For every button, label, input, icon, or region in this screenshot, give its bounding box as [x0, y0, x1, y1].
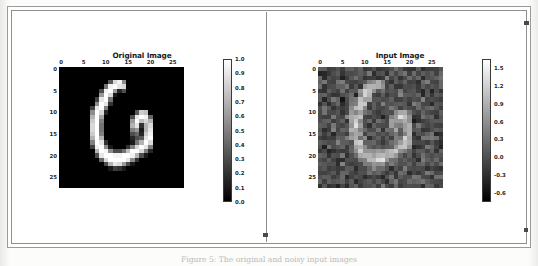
x-tick-label: 0: [318, 59, 322, 65]
y-tick-label: 5: [312, 88, 316, 94]
heatmap-input-image: [318, 67, 443, 188]
colorbar-tick-label: -0.3: [494, 172, 506, 178]
colorbar-tick-label: 0.6: [235, 113, 245, 119]
x-tick-label: 20: [147, 59, 155, 65]
colorbar-tick-label: 0.9: [235, 70, 245, 76]
colorbar-tick-label: 0.1: [235, 185, 245, 191]
x-tick-label: 10: [102, 59, 110, 65]
y-tick-label: 0: [312, 66, 316, 72]
y-tick-label: 10: [49, 109, 57, 115]
y-tick-label: 20: [49, 153, 57, 159]
x-tick-label: 25: [169, 59, 177, 65]
colorbar-tick-label: 0.0: [235, 199, 245, 205]
scanned-page: Original Image 0510152025 0510152025 1.0…: [0, 0, 538, 266]
heatmap-original-image: [59, 67, 184, 188]
y-axis-ticks-input: 0510152025: [302, 67, 316, 188]
colorbar-tick-label: 0.2: [235, 170, 245, 176]
x-axis-ticks-original: 0510152025: [59, 59, 184, 67]
pixel-grid-input: [318, 67, 443, 188]
colorbar-tick-label: 0.6: [494, 119, 504, 125]
x-tick-label: 20: [406, 59, 414, 65]
x-tick-label: 15: [383, 59, 391, 65]
colorbar-tick-label: 0.8: [235, 85, 245, 91]
colorbar-tick-label: 0.0: [494, 154, 504, 160]
pixel-grid-original: [59, 67, 184, 188]
x-tick-label: 0: [59, 59, 63, 65]
figure-caption: Figure 5: The original and noisy input i…: [0, 255, 538, 266]
y-tick-label: 5: [53, 88, 57, 94]
colorbar-gradient-input: [482, 59, 491, 202]
y-axis-ticks-original: 0510152025: [43, 67, 57, 188]
colorbar-tick-label: 1.5: [494, 65, 504, 71]
panel-original-image: Original Image 0510152025 0510152025 1.0…: [12, 12, 268, 234]
y-tick-label: 15: [308, 131, 316, 137]
x-axis-ticks-input: 0510152025: [318, 59, 443, 67]
y-tick-label: 25: [308, 174, 316, 180]
y-tick-label: 10: [308, 109, 316, 115]
y-tick-label: 15: [49, 131, 57, 137]
x-tick-label: 5: [82, 59, 86, 65]
colorbar-tick-label: 0.4: [235, 142, 245, 148]
colorbar-gradient-original: [223, 59, 232, 202]
colorbar-tick-label: 1.2: [494, 83, 504, 89]
panel-input-image: Input Image 0510152025 0510152025 1.51.2…: [270, 12, 526, 234]
colorbar-tick-label: 0.3: [235, 156, 245, 162]
colorbar-tick-label: -0.6: [494, 190, 506, 196]
x-tick-label: 15: [124, 59, 132, 65]
y-tick-label: 25: [49, 174, 57, 180]
colorbar-tick-label: 0.5: [235, 128, 245, 134]
colorbar-tick-label: 1.0: [235, 56, 245, 62]
colorbar-tick-label: 0.9: [494, 101, 504, 107]
x-tick-label: 5: [341, 59, 345, 65]
x-tick-label: 10: [361, 59, 369, 65]
y-tick-label: 20: [308, 153, 316, 159]
colorbar-tick-label: 0.3: [494, 136, 504, 142]
colorbar-tick-label: 0.7: [235, 99, 245, 105]
x-tick-label: 25: [428, 59, 436, 65]
y-tick-label: 0: [53, 66, 57, 72]
